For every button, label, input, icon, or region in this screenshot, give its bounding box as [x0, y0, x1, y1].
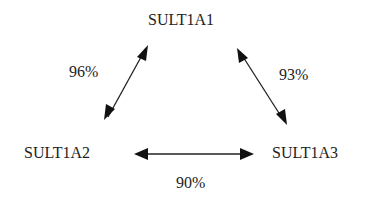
arrow-1a2-1a3 [134, 148, 254, 160]
arrow-1a1-1a2 [104, 45, 148, 120]
node-sult1a3: SULT1A3 [272, 145, 338, 161]
edge-label-93: 93% [279, 67, 308, 83]
node-sult1a1: SULT1A1 [148, 12, 214, 28]
arrows-layer [0, 0, 373, 199]
edge-label-90: 90% [176, 175, 205, 191]
edge-label-96: 96% [69, 64, 98, 80]
node-sult1a2: SULT1A2 [24, 145, 90, 161]
arrow-1a1-1a3 [237, 48, 287, 125]
